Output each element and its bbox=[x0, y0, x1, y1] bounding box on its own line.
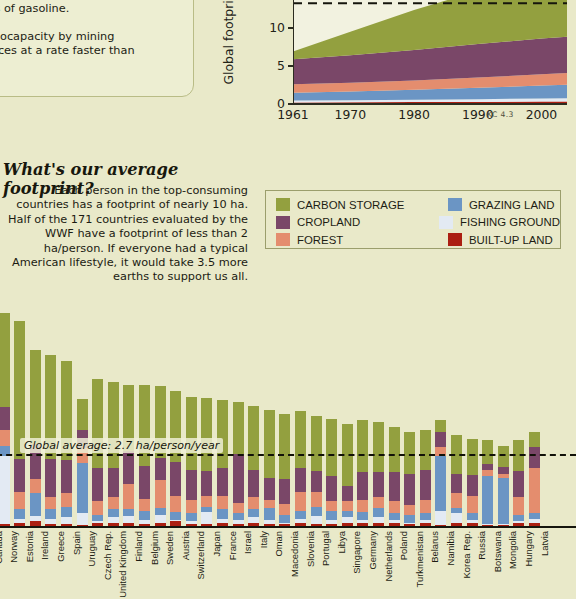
country-label: Namibia bbox=[445, 531, 456, 565]
bar-italy bbox=[248, 406, 259, 528]
bar-segment-grazing-land bbox=[30, 493, 41, 516]
country-label: Estonia bbox=[24, 531, 35, 562]
bar-segment-fishing-ground bbox=[61, 517, 72, 524]
bar-segment-carbon-storage bbox=[217, 400, 228, 468]
legend-swatch-icon bbox=[448, 198, 462, 211]
bar-segment-grazing-land bbox=[155, 508, 166, 515]
bar-segment-cropland bbox=[14, 459, 25, 492]
bar-france bbox=[217, 400, 228, 528]
bar-segment-cropland bbox=[92, 468, 103, 501]
bar-segment-grazing-land bbox=[435, 456, 446, 510]
land-type-legend: CARBON STORAGEGRAZING LANDCROPLANDFISHIN… bbox=[265, 190, 561, 249]
country-label: Latvia bbox=[539, 531, 550, 556]
bar-segment-forest bbox=[155, 480, 166, 508]
bar-segment-forest bbox=[30, 479, 41, 494]
country-label: Netherlands bbox=[383, 531, 394, 582]
bar-segment-cropland bbox=[264, 478, 275, 501]
country-label: Macedonia bbox=[289, 531, 300, 577]
country-label: Belgium bbox=[149, 531, 160, 565]
bar-norway bbox=[0, 313, 10, 528]
bar-segment-cropland bbox=[201, 471, 212, 496]
bar-segment-grazing-land bbox=[248, 509, 259, 517]
bar-austria bbox=[170, 391, 181, 528]
bar-switzerland bbox=[186, 397, 197, 529]
bar-singapore bbox=[342, 424, 353, 528]
bar-segment-grazing-land bbox=[482, 476, 493, 524]
bar-segment-carbon-storage bbox=[279, 414, 290, 479]
bar-segment-cropland bbox=[45, 459, 56, 498]
legend-rows: CARBON STORAGEGRAZING LANDCROPLANDFISHIN… bbox=[276, 196, 560, 249]
bar-segment-grazing-land bbox=[139, 511, 150, 520]
legend-label: GRAZING LAND bbox=[469, 199, 554, 211]
bar-segment-cropland bbox=[389, 472, 400, 501]
bar-estonia bbox=[14, 321, 25, 528]
bar-segment-carbon-storage bbox=[326, 419, 337, 476]
country-footprint-bar-chart: Global average: 2.7 ha/person/year Canad… bbox=[0, 247, 576, 599]
bar-segment-cropland bbox=[467, 475, 478, 496]
bar-segment-cropland bbox=[529, 447, 540, 468]
bar-segment-fishing-ground bbox=[201, 512, 212, 524]
bar-slovenia bbox=[295, 411, 306, 528]
bar-segment-forest bbox=[373, 497, 384, 508]
bar-segment-forest bbox=[0, 430, 10, 446]
country-label: Sweden bbox=[164, 531, 175, 565]
country-label: Russia bbox=[476, 531, 487, 560]
bar-segment-grazing-land bbox=[170, 512, 181, 520]
bar-segment-carbon-storage bbox=[311, 416, 322, 470]
bar-segment-forest bbox=[123, 484, 134, 509]
legend-swatch-icon bbox=[276, 216, 290, 229]
bar-segment-carbon-storage bbox=[404, 432, 415, 473]
bar-segment-cropland bbox=[217, 468, 228, 496]
bar-segment-carbon-storage bbox=[435, 420, 446, 432]
bar-segment-cropland bbox=[61, 460, 72, 493]
legend-item-cropland: CROPLAND bbox=[276, 216, 439, 229]
bar-russia bbox=[467, 439, 478, 528]
country-label: Mongolia bbox=[507, 531, 518, 569]
note-line: earth's biocapacity by mining bbox=[0, 30, 181, 45]
bar-segment-grazing-land bbox=[108, 509, 119, 517]
bar-korea-rep- bbox=[451, 435, 462, 528]
bar-segment-cropland bbox=[404, 474, 415, 506]
bar-segment-grazing-land bbox=[279, 515, 290, 523]
note-line: oduced. bbox=[0, 59, 181, 74]
legend-item-forest: FOREST bbox=[276, 233, 448, 246]
bar-segment-carbon-storage bbox=[201, 398, 212, 471]
legend-item-built-up-land: BUILT-UP LAND bbox=[448, 233, 553, 246]
bar-namibia bbox=[435, 420, 446, 528]
country-label: Poland bbox=[398, 531, 409, 560]
bar-segment-cropland bbox=[326, 476, 337, 501]
bar-belgium bbox=[139, 385, 150, 528]
bar-segment-forest bbox=[529, 468, 540, 513]
bar-segment-forest bbox=[420, 500, 431, 513]
bar-segment-fishing-ground bbox=[451, 513, 462, 522]
legend-swatch-icon bbox=[439, 216, 453, 229]
bar-segment-carbon-storage bbox=[248, 406, 259, 470]
bar-segment-grazing-land bbox=[217, 509, 228, 518]
legend-label: CARBON STORAGE bbox=[297, 199, 404, 211]
bar-segment-cropland bbox=[311, 471, 322, 492]
country-label: Ireland bbox=[39, 531, 50, 560]
bar-segment-grazing-land bbox=[326, 511, 337, 520]
note-line: er resources at a rate faster than bbox=[0, 44, 181, 59]
bar-segment-grazing-land bbox=[498, 478, 509, 525]
area-chart-plot bbox=[293, 0, 567, 104]
bar-segment-forest bbox=[139, 499, 150, 511]
legend-swatch-icon bbox=[276, 233, 290, 246]
bar-segment-grazing-land bbox=[186, 513, 197, 521]
bar-segment-grazing-land bbox=[342, 511, 353, 518]
bar-uruguay bbox=[77, 399, 88, 528]
bar-segment-carbon-storage bbox=[233, 402, 244, 454]
area-chart-y-axis-label: Global footprint (billion gha) bbox=[221, 0, 236, 85]
bar-segment-forest bbox=[279, 504, 290, 515]
bar-segment-grazing-land bbox=[14, 509, 25, 518]
country-label: Austria bbox=[180, 531, 191, 560]
global-average-label: Global average: 2.7 ha/person/year bbox=[20, 438, 223, 453]
bar-segment-cropland bbox=[357, 472, 368, 500]
country-label: Spain bbox=[71, 531, 82, 555]
bar-segment-cropland bbox=[279, 479, 290, 504]
bar-segment-forest bbox=[326, 501, 337, 510]
bar-belarus bbox=[420, 430, 431, 528]
country-label: Korea Rep. bbox=[461, 531, 472, 578]
country-label: Greece bbox=[55, 531, 66, 562]
bar-segment-carbon-storage bbox=[389, 427, 400, 472]
